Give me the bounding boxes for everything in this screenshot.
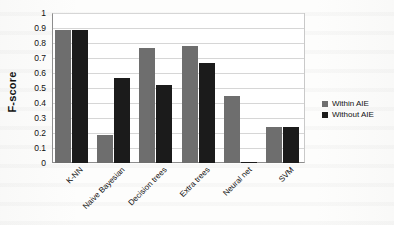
y-axis-tick-label: 0.5 [10,84,46,93]
bar-without[interactable] [156,85,172,163]
bar-within[interactable] [224,96,240,164]
legend-swatch-icon [322,101,328,107]
y-axis-tick-label: 0.3 [10,114,46,123]
bar-within[interactable] [182,46,198,163]
bar-group [136,13,178,163]
y-axis-tick-label: 0.2 [10,129,46,138]
bar-group [221,13,263,163]
chart-legend: Within AIEWithout AIE [322,100,374,119]
bar-without[interactable] [72,30,88,164]
legend-label: Within AIE [332,100,369,108]
y-axis-tick-label: 1 [10,9,46,18]
bars-layer [52,13,305,163]
legend-label: Without AIE [332,111,374,119]
bar-group [94,13,136,163]
x-axis-label-neural-net: Neural net [222,166,254,198]
x-axis-label-extra-trees: Extra trees [178,166,211,199]
bar-without[interactable] [241,162,257,164]
bar-group [263,13,305,163]
bar-within[interactable] [55,30,71,164]
bar-without[interactable] [199,63,215,164]
legend-item-without[interactable]: Without AIE [322,111,374,119]
f-score-bar-chart: F-score 00.10.20.30.40.50.60.70.80.91 K-… [0,0,394,225]
bar-within[interactable] [139,48,155,164]
x-axis-label-k-nn: K-NN [65,166,84,185]
bar-group [179,13,221,163]
y-axis-tick-label: 0 [10,159,46,168]
x-axis-category-labels: K-NNNaive BayesianDecision treesExtra tr… [52,166,305,224]
y-axis-tick-label: 0.7 [10,54,46,63]
y-axis-tick-label: 0.8 [10,39,46,48]
x-axis-label-decision-trees: Decision trees [128,166,169,207]
bar-without[interactable] [283,127,299,163]
legend-swatch-icon [322,112,328,118]
bar-within[interactable] [97,135,113,164]
bar-within[interactable] [266,127,282,163]
legend-item-within[interactable]: Within AIE [322,100,374,108]
y-axis-tick-label: 0.6 [10,69,46,78]
x-axis-label-svm: SVM [278,166,296,184]
y-axis-tick-label: 0.1 [10,144,46,153]
bar-without[interactable] [114,78,130,164]
bar-group [52,13,94,163]
y-axis-tick-label: 0.9 [10,24,46,33]
y-axis-tick-label: 0.4 [10,99,46,108]
x-axis-label-naive-bayesian: Naive Bayesian [82,166,127,211]
